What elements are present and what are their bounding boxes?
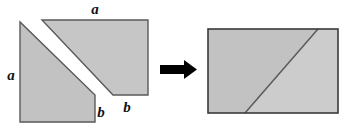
label-b-lower: b — [97, 104, 105, 120]
label-b-right: b — [123, 99, 131, 115]
label-a-left: a — [7, 67, 15, 83]
label-a-top: a — [91, 1, 99, 17]
diagram-canvas: a a b b — [0, 0, 348, 140]
dissection-diagram: a a b b — [0, 0, 348, 140]
arrow-shaft — [160, 65, 185, 74]
right-figure-group — [208, 29, 338, 113]
